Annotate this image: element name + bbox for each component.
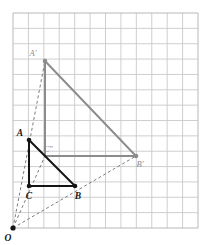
geometry-canvas: A′C″B′ACBO [0, 0, 210, 245]
label-c-prime: C″ [43, 144, 53, 154]
dilation-figure: A′C″B′ACBO [0, 0, 210, 245]
image-dot-a-prime [43, 59, 48, 64]
preimage-dot-b [73, 184, 78, 189]
label-b: B [74, 191, 81, 201]
image-dot-b-prime [134, 154, 139, 159]
preimage-dot-a [27, 138, 32, 143]
grid [13, 13, 198, 228]
label-a-prime: A′ [28, 48, 36, 58]
label-c: C [26, 191, 33, 201]
preimage-dot-c [27, 184, 32, 189]
vertex-labels: A′C″B′ACBO [5, 48, 144, 243]
label-o: O [5, 233, 12, 243]
label-b-prime: B′ [136, 159, 143, 169]
center-dot-o [10, 225, 15, 230]
label-a: A [16, 128, 23, 138]
